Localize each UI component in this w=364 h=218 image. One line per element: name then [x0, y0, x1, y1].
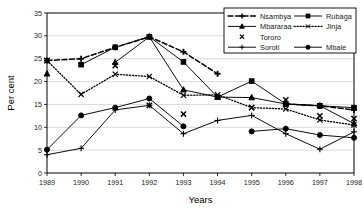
circle-marker	[181, 124, 186, 129]
square-marker	[249, 79, 254, 84]
series-soroti	[44, 102, 357, 157]
legend-label: Nsambya	[260, 12, 292, 21]
circle-marker	[147, 96, 152, 101]
square-marker	[181, 60, 186, 65]
circle-marker	[317, 133, 322, 138]
legend-label: Jinja	[326, 22, 342, 31]
legend-label: Rubaga	[326, 12, 353, 21]
triangle-marker	[44, 71, 50, 76]
y-tick-label: 10	[34, 123, 42, 132]
x-tick-label: 1989	[39, 178, 55, 187]
circle-marker	[352, 135, 357, 140]
legend-label: Mbararaa	[260, 22, 293, 31]
circle-marker	[283, 126, 288, 131]
line-chart: 05101520253035 1989199019911992199319941…	[0, 0, 364, 218]
y-tick-label: 25	[34, 54, 42, 63]
triangle-marker	[249, 94, 255, 99]
series-line	[252, 129, 354, 138]
x-tick-label: 1991	[107, 178, 123, 187]
circle-marker	[113, 105, 118, 110]
circle-marker	[306, 45, 310, 49]
y-axis-ticks: 05101520253035	[34, 9, 47, 178]
y-tick-label: 5	[38, 146, 42, 155]
x-tick-label: 1996	[278, 178, 294, 187]
y-tick-label: 20	[34, 77, 42, 86]
series-tororo	[44, 58, 356, 121]
x-axis-ticks: 1989199019911992199319941995199619971998	[39, 173, 362, 187]
square-marker	[352, 105, 357, 110]
x-tick-label: 1994	[210, 178, 226, 187]
x-tick-label: 1992	[141, 178, 157, 187]
legend-label: Soroti	[260, 43, 280, 52]
y-axis-label: Per cent	[5, 75, 16, 111]
chart-container: 05101520253035 1989199019911992199319941…	[0, 0, 364, 218]
x-tick-label: 1998	[346, 178, 362, 187]
x-axis-label: Years	[189, 194, 213, 205]
circle-marker	[249, 129, 254, 134]
y-tick-label: 30	[34, 31, 42, 40]
chart-legend: NsambyaRubagaMbararaaJinjaTororoSorotiMb…	[224, 8, 356, 53]
circle-marker	[45, 147, 50, 152]
legend-label: Mbale	[326, 43, 346, 52]
series-jinja	[44, 58, 356, 128]
x-tick-label: 1990	[73, 178, 89, 187]
series-line	[47, 61, 354, 125]
y-tick-label: 15	[34, 100, 42, 109]
circle-marker	[79, 113, 84, 118]
square-marker	[79, 62, 84, 67]
x-tick-label: 1995	[244, 178, 260, 187]
legend-label: Tororo	[260, 33, 281, 42]
square-marker	[113, 45, 118, 50]
y-tick-label: 35	[34, 9, 42, 18]
x-tick-label: 1997	[312, 178, 328, 187]
x-tick-label: 1993	[175, 178, 191, 187]
y-tick-label: 0	[38, 169, 42, 178]
square-marker	[306, 14, 310, 18]
